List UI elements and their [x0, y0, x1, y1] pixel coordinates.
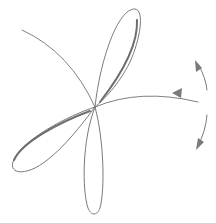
- arc-arrow-icon: [172, 88, 182, 98]
- left-petal: [12, 107, 95, 172]
- left-petal-shade: [14, 111, 90, 160]
- top-petal: [95, 9, 140, 107]
- tangent-arc: [22, 30, 95, 107]
- top-petal-shade: [100, 20, 137, 102]
- rose-curve-diagram: [0, 0, 216, 223]
- rotate-down-arrowhead-icon: [196, 138, 204, 150]
- bottom-petal: [84, 107, 103, 214]
- tangent-arc-right: [95, 96, 198, 107]
